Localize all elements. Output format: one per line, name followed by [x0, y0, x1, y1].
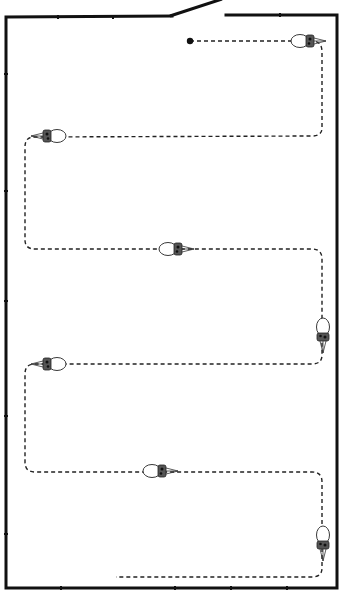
room-walls — [6, 15, 337, 588]
vehicle-3 — [159, 243, 194, 256]
coverage-diagram — [0, 0, 341, 594]
vehicle-1 — [291, 35, 326, 48]
vehicle-5 — [31, 358, 66, 371]
diagram-canvas — [0, 0, 341, 594]
wall-ticks — [4, 13, 288, 590]
coverage-path — [25, 41, 322, 577]
vehicle-2 — [31, 130, 66, 143]
start-point — [187, 38, 193, 44]
vehicle-7 — [317, 526, 330, 561]
vehicle-6 — [143, 465, 178, 478]
vehicle-4 — [317, 318, 330, 353]
door-leaf — [170, 0, 222, 16]
